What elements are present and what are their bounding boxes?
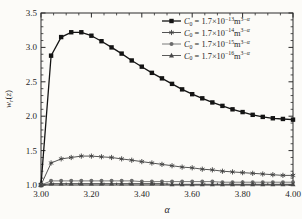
data-point-marker [261,115,265,119]
data-point-marker [79,30,83,34]
legend-label: C0 = 1.7×10−15m3−α [184,39,251,50]
data-point-marker [240,110,244,114]
data-point-marker [89,34,93,38]
data-point-marker [170,82,174,86]
x-tick-label: 3.80 [235,189,251,199]
data-point-marker [130,58,134,62]
data-point-marker [200,96,204,100]
x-tick-label: 3.20 [84,189,100,199]
legend-label: C0 = 1.7×10−16m3−α [184,50,251,61]
data-point-marker [250,113,254,117]
data-point-marker [281,117,285,121]
data-point-marker [160,76,164,80]
series-1 [39,30,295,187]
legend-item: C0 = 1.7×10−13m3−α [162,16,251,27]
data-point-marker [150,71,154,75]
x-tick-label: 3.00 [33,189,49,199]
y-tick-label: 1.0 [26,180,38,190]
data-point-marker [230,107,234,111]
data-point-marker [109,45,113,49]
y-tick-label: 1.5 [26,146,38,156]
y-tick-label: 2.5 [26,77,38,87]
data-point-marker [210,100,214,104]
legend-item: C0 = 1.7×10−16m3−α [162,50,251,61]
plot-frame [41,13,293,185]
legend-item: C0 = 1.7×10−15m3−α [162,39,251,50]
data-point-marker [180,87,184,91]
data-point-marker [169,19,173,23]
data-point-marker [291,117,295,121]
legend-label: C0 = 1.7×10−14m3−α [184,27,251,38]
y-tick-label: 3.5 [26,8,38,18]
x-tick-label: 3.40 [134,189,150,199]
data-point-marker [59,35,63,39]
data-point-marker [170,42,174,46]
data-point-marker [119,51,123,55]
y-axis-label: wr(z) [3,90,14,108]
y-tick-label: 3.0 [26,42,38,52]
x-axis-label: α [164,204,170,215]
legend-label: C0 = 1.7×10−13m3−α [184,16,251,27]
x-tick-label: 4.00 [285,189,301,199]
data-point-marker [49,53,53,57]
data-point-marker [220,104,224,108]
data-point-marker [140,64,144,68]
data-point-marker [49,160,54,165]
figure-container: 3.003.203.403.603.804.001.01.52.02.53.03… [0,0,302,219]
data-point-marker [99,39,103,43]
legend-item: C0 = 1.7×10−14m3−α [162,27,251,38]
chart-canvas: 3.003.203.403.603.804.001.01.52.02.53.03… [0,0,302,219]
x-tick-label: 3.60 [184,189,200,199]
data-point-marker [190,92,194,96]
y-tick-label: 2.0 [26,111,38,121]
data-point-marker [271,116,275,120]
data-point-marker [69,30,73,34]
